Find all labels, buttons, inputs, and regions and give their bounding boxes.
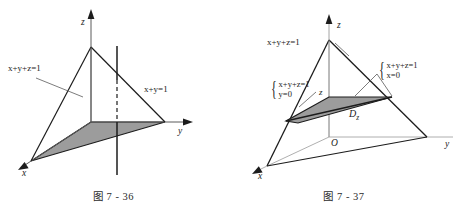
brace-label-left: { x+y+z=1 y=0 xyxy=(269,79,310,99)
region-subscript: z xyxy=(356,113,359,122)
axis-label-x: x xyxy=(258,171,262,181)
z-axis-arrowhead xyxy=(326,14,333,24)
diagram-7-36-graphic xyxy=(0,0,227,190)
leader-line-plane-xyz xyxy=(335,43,349,56)
figure-7-37: z y x O x+y+z=1 z Dz { x+y+z=1 y=0 { x+y… xyxy=(227,0,455,220)
brace-left-row2: y=0 xyxy=(279,89,310,99)
figure-caption-7-37: 图 7 - 37 xyxy=(230,188,455,203)
shaded-projection-triangle xyxy=(31,122,165,161)
label-plane-xyz: x+y+z=1 xyxy=(8,64,41,73)
origin-label: O xyxy=(331,138,338,148)
axis-label-z: z xyxy=(337,20,341,30)
axis-label-y: y xyxy=(178,126,182,136)
label-plane-xyz: x+y+z=1 xyxy=(267,38,300,47)
right-brace-glyph: { xyxy=(379,62,385,78)
brace-label-right: { x+y+z=1 x=0 xyxy=(377,60,418,80)
brace-right-row1: x+y+z=1 xyxy=(387,60,418,70)
axis-label-x: x xyxy=(22,168,26,178)
axis-label-y: y xyxy=(445,139,449,149)
brace-right-row2: x=0 xyxy=(387,70,418,80)
edge-apex-to-y xyxy=(329,40,427,137)
label-plane-xy: x+y=1 xyxy=(144,85,168,94)
leader-line-plane-xyz xyxy=(36,78,83,97)
diagram-7-37-graphic xyxy=(227,0,455,190)
base-edge-x-to-y xyxy=(267,137,427,166)
z-axis-arrowhead xyxy=(88,9,95,19)
figure-7-36: z y x x+y+z=1 x+y=1 图 7 - 36 xyxy=(0,0,227,220)
base-edge-origin-to-x xyxy=(267,137,329,166)
brace-left-row1: x+y+z=1 xyxy=(279,79,310,89)
figure-caption-7-36: 图 7 - 36 xyxy=(0,188,227,203)
left-brace-glyph: { xyxy=(271,81,277,97)
label-region-dz: Dz xyxy=(349,109,359,122)
y-axis-arrowhead xyxy=(183,119,193,126)
label-height-z: z xyxy=(319,88,323,97)
figure-pair: z y x x+y+z=1 x+y=1 图 7 - 36 xyxy=(0,0,455,220)
axis-label-z: z xyxy=(81,17,85,27)
